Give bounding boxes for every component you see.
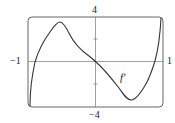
y-min-label: −4 (89, 110, 100, 120)
x-min-label: −1 (10, 56, 21, 66)
function-label: f′ (120, 72, 125, 82)
x-max-label: 1 (167, 56, 172, 66)
y-max-label: 4 (92, 5, 97, 15)
chart-plot-area (0, 0, 175, 123)
